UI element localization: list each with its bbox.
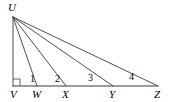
geometry-figure: U V W X Y Z 1 2 3 4 [0,0,172,102]
vertex-label-U: U [8,1,17,13]
angle-label-3: 3 [88,72,93,83]
vertex-label-V: V [10,88,18,100]
angle-label-4: 4 [129,71,134,82]
angle-label-1: 1 [30,73,35,84]
right-angle-marker-icon [13,79,20,86]
vertex-label-Y: Y [109,88,117,100]
vertex-label-X: X [61,88,70,100]
segment-UY [13,17,113,86]
vertex-label-W: W [32,88,42,100]
figure-canvas: U V W X Y Z 1 2 3 4 [0,0,172,102]
vertex-label-Z: Z [154,88,161,100]
angle-label-2: 2 [55,73,60,84]
